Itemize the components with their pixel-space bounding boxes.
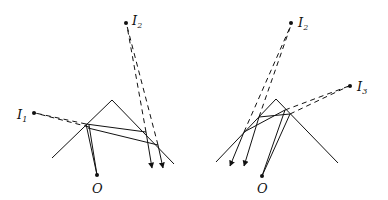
label-I1-left: I1 — [16, 107, 27, 124]
label-O-right: O — [257, 181, 268, 196]
observer-point-left — [95, 173, 99, 177]
dashed-to-I2-b — [259, 25, 291, 117]
observer-point-right — [260, 174, 264, 178]
outgoing-ray-b — [158, 145, 163, 168]
dashed-to-I2-a — [127, 26, 146, 132]
dashed-to-I1-b — [35, 113, 89, 127]
outgoing-ray-a — [146, 132, 152, 168]
ray-o-to-mirror-b — [89, 125, 97, 175]
ray-o-to-mirror-b — [262, 114, 290, 176]
image-point-I3-right — [348, 84, 352, 88]
left-mirror-pair — [52, 100, 174, 164]
outgoing-ray-a — [230, 132, 244, 166]
reflection-diagram: I1 I2 O I2 I3 O — [0, 0, 388, 200]
right-mirror-pair — [216, 99, 338, 163]
dashed-to-I3-a — [285, 86, 349, 110]
label-I3-right: I3 — [356, 79, 367, 96]
ray-o-to-mirror-a — [262, 110, 285, 176]
ray-between-mirrors-b — [259, 114, 290, 117]
image-point-I1-left — [32, 111, 36, 115]
image-point-I2-left — [124, 21, 128, 25]
image-point-I2-right — [289, 21, 293, 25]
label-I2-right: I2 — [297, 15, 308, 32]
label-I2-left: I2 — [131, 13, 142, 30]
label-O-left: O — [92, 181, 103, 196]
right-panel — [216, 25, 349, 176]
dashed-to-I2-b — [127, 26, 158, 145]
dashed-to-I3-b — [290, 86, 349, 114]
left-panel — [35, 26, 174, 175]
